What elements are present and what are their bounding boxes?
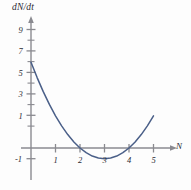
y-tick-label-5: 5 (15, 68, 26, 78)
y-tick-label-3: 3 (15, 89, 26, 99)
y-tick-label-1: 1 (15, 111, 26, 121)
plot-canvas (0, 0, 191, 190)
y-tick-label-7: 7 (15, 46, 26, 56)
x-tick-label-2: 2 (75, 155, 86, 165)
x-tick-label-5: 5 (148, 155, 159, 165)
x-tick-label-3: 3 (99, 155, 110, 165)
y-axis-arrow-icon (28, 16, 34, 23)
y-tick-label-minus-1: -1 (11, 154, 26, 164)
parabola-curve (31, 62, 154, 159)
y-axis-title: dN/dt (12, 2, 34, 12)
x-axis-title: N (176, 141, 182, 151)
x-tick-label-1: 1 (50, 155, 61, 165)
x-tick-label-4: 4 (124, 155, 135, 165)
figure-container: dN/dt N 9 7 5 3 1 -1 1 2 3 4 5 (0, 0, 191, 190)
y-tick-label-9: 9 (15, 25, 26, 35)
